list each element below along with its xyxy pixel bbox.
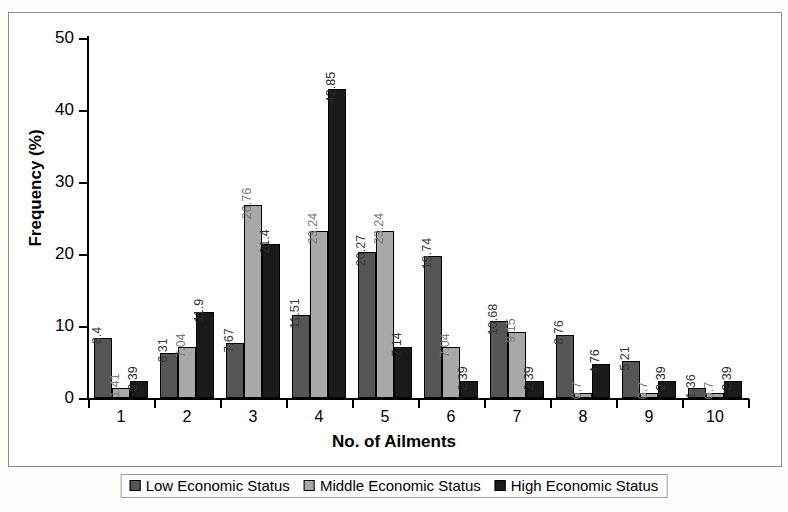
- x-axis-tick-label: 4: [289, 409, 349, 425]
- x-axis-tick-mark: [682, 399, 684, 408]
- bar[interactable]: 42.85: [328, 89, 346, 398]
- x-axis-tick-mark: [748, 399, 750, 408]
- x-axis-tick-label: 3: [223, 409, 283, 425]
- bar-value-label: 23.24: [307, 213, 320, 244]
- bar[interactable]: 4.76: [592, 364, 610, 398]
- y-axis-tick-label: 30: [34, 173, 74, 190]
- bar-value-label: 7.04: [439, 333, 452, 357]
- bar-value-label: 20.27: [355, 234, 368, 265]
- bar[interactable]: 2.39: [526, 381, 544, 398]
- bar-value-label: 2.39: [655, 367, 668, 391]
- bar-group: 10.689.152.39: [490, 38, 544, 398]
- x-axis-tick-label: 10: [685, 409, 745, 425]
- bar-value-label: 7.04: [175, 333, 188, 357]
- x-axis-tick-mark: [616, 399, 618, 408]
- bar[interactable]: 23.24: [376, 231, 394, 398]
- bar[interactable]: 0.7: [706, 393, 724, 398]
- bar-value-label: 0.7: [703, 382, 716, 399]
- y-axis-tick-label: 10: [34, 317, 74, 334]
- x-axis-tick-label: 1: [91, 409, 151, 425]
- bar-value-label: 0.7: [571, 382, 584, 399]
- y-axis-tick-label: 40: [34, 101, 74, 118]
- bar-value-label: 8.76: [553, 321, 566, 345]
- bar-group: 19.747.042.39: [424, 38, 478, 398]
- y-axis-tick-label: 20: [34, 245, 74, 262]
- bar[interactable]: 7.04: [178, 347, 196, 398]
- bar-value-label: 10.68: [487, 303, 500, 334]
- legend-label: High Economic Status: [511, 478, 659, 493]
- bar[interactable]: 2.39: [130, 381, 148, 398]
- bar[interactable]: 2.39: [724, 381, 742, 398]
- bar-value-label: 7.67: [223, 329, 236, 353]
- bar[interactable]: 7.14: [394, 347, 412, 398]
- bar[interactable]: 19.74: [424, 256, 442, 398]
- bar-value-label: 7.14: [391, 332, 404, 356]
- bar[interactable]: 23.24: [310, 231, 328, 398]
- chart-page: Frequency (%) No. of Ailments 0102030405…: [0, 0, 788, 512]
- bar-value-label: 11.9: [193, 299, 206, 322]
- bar[interactable]: 21.4: [262, 244, 280, 398]
- bar[interactable]: 0.7: [574, 393, 592, 398]
- x-axis-tick-mark: [220, 399, 222, 408]
- legend-item[interactable]: Middle Economic Status: [304, 478, 481, 493]
- y-axis-tick-mark: [79, 182, 88, 184]
- bar[interactable]: 6.31: [160, 353, 178, 398]
- bar-value-label: 4.76: [589, 350, 602, 374]
- bar-value-label: 21.4: [259, 230, 272, 254]
- bar[interactable]: 7.67: [226, 343, 244, 398]
- legend-label: Low Economic Status: [146, 478, 290, 493]
- bar[interactable]: 11.51: [292, 315, 310, 398]
- bar-group: 7.6726.7621.4: [226, 38, 280, 398]
- bar-group: 5.210.72.39: [622, 38, 676, 398]
- y-axis-tick-mark: [79, 326, 88, 328]
- y-axis-tick-mark: [79, 254, 88, 256]
- bar-value-label: 1.36: [685, 374, 698, 398]
- bar-group: 6.317.0411.9: [160, 38, 214, 398]
- bar-value-label: 11.51: [289, 298, 302, 328]
- x-axis-tick-label: 6: [421, 409, 481, 425]
- legend-item[interactable]: High Economic Status: [495, 478, 659, 493]
- bar-group: 20.2723.247.14: [358, 38, 412, 398]
- legend-label: Middle Economic Status: [320, 478, 481, 493]
- bar-group: 11.5123.2442.85: [292, 38, 346, 398]
- y-axis-tick-label: 0: [34, 389, 74, 406]
- bar[interactable]: 11.9: [196, 312, 214, 398]
- plot-area: 8.41.412.396.317.0411.97.6726.7621.411.5…: [88, 38, 748, 398]
- bar-value-label: 8.4: [91, 327, 104, 344]
- legend-swatch-icon: [130, 480, 141, 491]
- bar[interactable]: 2.39: [460, 381, 478, 398]
- y-axis-tick-label: 50: [34, 29, 74, 46]
- bar-value-label: 23.24: [373, 213, 386, 244]
- legend-item[interactable]: Low Economic Status: [130, 478, 290, 493]
- x-axis-tick-mark: [352, 399, 354, 408]
- bar-group: 8.41.412.39: [94, 38, 148, 398]
- y-axis-tick-mark: [79, 398, 88, 400]
- bar-group: 8.760.74.76: [556, 38, 610, 398]
- bar[interactable]: 20.27: [358, 252, 376, 398]
- legend-swatch-icon: [304, 480, 315, 491]
- x-axis-tick-mark: [550, 399, 552, 408]
- bar-value-label: 42.85: [325, 72, 338, 103]
- bar[interactable]: 0.7: [640, 393, 658, 398]
- x-axis-title: No. of Ailments: [0, 432, 788, 452]
- x-axis-tick-mark: [88, 399, 90, 408]
- chart-legend: Low Economic StatusMiddle Economic Statu…: [121, 474, 668, 498]
- x-axis-tick-mark: [154, 399, 156, 408]
- y-axis-tick-mark: [79, 38, 88, 40]
- bar-value-label: 2.39: [457, 367, 470, 391]
- bar[interactable]: 2.39: [658, 381, 676, 398]
- bar-value-label: 26.76: [241, 188, 254, 219]
- bar-value-label: 19.74: [421, 238, 434, 269]
- x-axis-tick-label: 5: [355, 409, 415, 425]
- x-axis-tick-mark: [418, 399, 420, 408]
- x-axis-tick-label: 9: [619, 409, 679, 425]
- bar-value-label: 2.39: [721, 367, 734, 391]
- bar-value-label: 6.31: [157, 338, 170, 362]
- x-axis-tick-label: 8: [553, 409, 613, 425]
- bar-value-label: 0.7: [637, 382, 650, 399]
- legend-swatch-icon: [495, 480, 506, 491]
- x-axis-tick-mark: [286, 399, 288, 408]
- x-axis-tick-label: 7: [487, 409, 547, 425]
- x-axis-tick-mark: [484, 399, 486, 408]
- bar-value-label: 9.15: [505, 318, 518, 342]
